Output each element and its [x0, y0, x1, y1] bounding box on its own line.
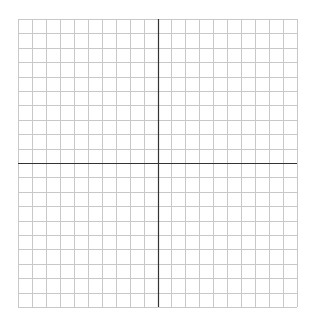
coordinate-grid	[0, 0, 314, 323]
grid-canvas	[0, 0, 314, 323]
